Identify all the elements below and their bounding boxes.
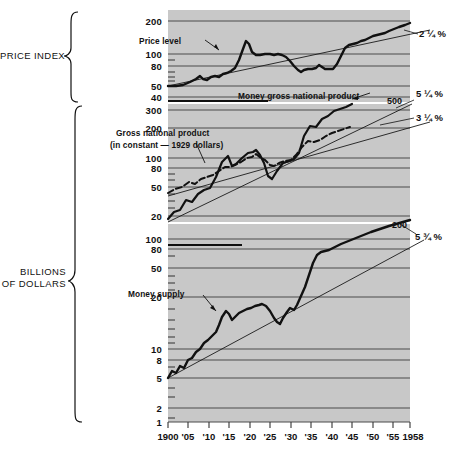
rate-label-money-gnp: 5 ¼ % — [416, 88, 443, 99]
price-level-trend-line — [168, 30, 430, 86]
group-label-price-index: PRICE INDEX — [0, 50, 62, 62]
ytick-money-1: 1 — [120, 417, 162, 428]
end-value-money-gnp: 500 — [387, 96, 402, 106]
chart-graphics — [0, 0, 457, 466]
ytick-price-200: 200 — [120, 16, 162, 27]
rate-label-real-gnp: 3 ¼ % — [416, 112, 443, 123]
money-gnp-curve — [168, 104, 352, 219]
billions-brace — [68, 106, 82, 422]
group-label-billions-line1: BILLIONS — [0, 266, 66, 278]
ytick-money-10: 10 — [120, 344, 162, 355]
price-index-brace — [64, 12, 78, 102]
money-supply-leader-arrow — [210, 305, 216, 311]
ytick-price-80: 80 — [120, 61, 162, 72]
group-label-billions-line2: OF DOLLARS — [0, 278, 66, 290]
ytick-gnp-20: 20 — [120, 211, 162, 222]
x-axis-ticks — [168, 422, 410, 428]
ytick-money-80: 80 — [120, 244, 162, 255]
money-supply-minor-ticks — [168, 256, 175, 418]
price-level-rate-leader — [404, 30, 418, 34]
ytick-gnp-300: 300 — [120, 105, 162, 116]
price-level-leader-arrow — [214, 44, 219, 50]
ytick-money-50: 50 — [120, 263, 162, 274]
ytick-price-50: 50 — [120, 81, 162, 92]
price-index-minor-ticks — [168, 60, 175, 81]
money-supply-gridlines — [168, 239, 410, 408]
rate-label-money-supply: 5 ¾ % — [415, 231, 442, 242]
xtick-1958: 1958 — [395, 431, 431, 442]
ytick-money-2: 2 — [120, 403, 162, 414]
end-value-money-supply: 200 — [392, 220, 407, 230]
ytick-price-40: 40 — [120, 92, 162, 103]
annotation-price-level: Price level — [139, 36, 181, 47]
rate-label-price-level: 2 ¼ % — [419, 28, 446, 39]
ytick-gnp-50: 50 — [120, 182, 162, 193]
real-gnp-rate-leader — [380, 118, 414, 125]
annotation-money-gnp: Money gross national product — [238, 91, 359, 102]
ytick-money-8: 8 — [120, 355, 162, 366]
ytick-price-100: 100 — [120, 49, 162, 60]
annotation-money-supply: Money supply — [128, 289, 185, 300]
money-supply-trend-line — [168, 240, 424, 378]
annotation-real-gnp-line1: Gross national product — [116, 128, 209, 139]
ytick-money-5: 5 — [120, 373, 162, 384]
economic-indicators-chart: PRICE INDEX BILLIONS OF DOLLARS 200 100 … — [0, 0, 457, 466]
ytick-gnp-80: 80 — [120, 163, 162, 174]
annotation-real-gnp-line2: (in constant — 1929 dollars) — [110, 140, 223, 151]
money-supply-curve — [168, 220, 410, 378]
